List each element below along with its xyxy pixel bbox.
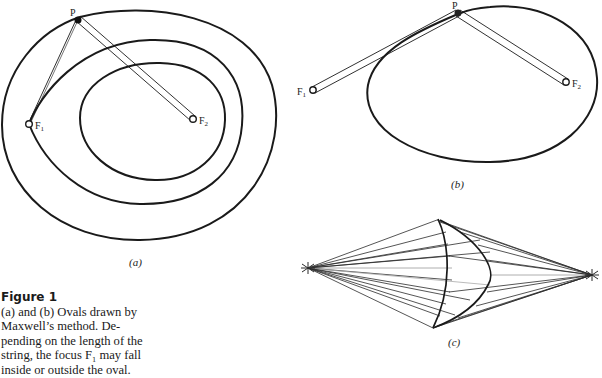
figure-caption: Figure 1 (a) and (b) Ovals drawn by Maxw… [1,290,201,378]
ray-fan-right [433,220,592,328]
string-p-f2-b [76,21,191,121]
label-f2-b: F2 [572,78,582,91]
caption-line-5: inside or outside the oval. [1,363,201,378]
focus-f2-pin-b [563,79,569,85]
caption-line-4: string, the focus F₁ may fall [1,348,201,363]
focus-f1-pin-b [310,87,316,93]
string-f1-p-2 [31,20,78,122]
panel-b [312,6,597,162]
label-p-b: P [452,0,458,11]
focus-f1-pin [26,121,33,128]
left-focus-star-icon [301,262,315,274]
panel-label-b: (b) [451,178,464,191]
ray-fan-left [308,220,490,328]
label-f1-a: F1 [35,120,45,133]
label-p-a: P [70,7,76,18]
label-f2-a: F2 [199,115,209,128]
caption-line-2: Maxwell’s method. De- [1,319,201,334]
focus-f2-pin [190,116,197,123]
panel-label-c: (c) [448,336,461,349]
label-f1-b: F1 [297,86,307,99]
caption-line-1: (a) and (b) Ovals drawn by [1,305,201,320]
string-p-f2-a [80,16,195,116]
string-p-f2-b-1 [460,10,568,79]
string-f1-p-b-1 [312,10,456,87]
string-f1-p-b-2 [315,16,459,93]
panel-label-a: (a) [129,256,142,269]
right-focus-star-icon [585,269,599,281]
caption-line-3: pending on the length of the [1,334,201,349]
string-p-f2-b-2 [456,16,564,85]
caption-title: Figure 1 [1,290,201,305]
panel-c [301,219,599,328]
